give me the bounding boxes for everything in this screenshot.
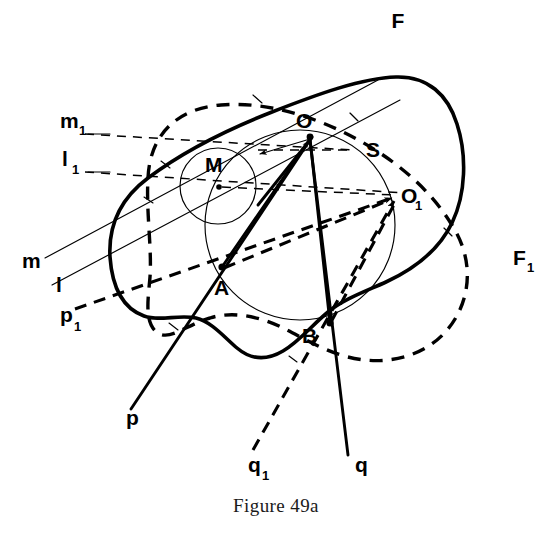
label-m1: m [60, 109, 79, 132]
tick-F-upper [253, 95, 262, 103]
label-B: B [302, 324, 317, 347]
point-M [216, 184, 222, 190]
label-l1-group: l 1 [62, 147, 79, 177]
label-m: m [22, 249, 41, 272]
label-l1-subscript: 1 [72, 162, 79, 177]
tick-F1-upper-right [350, 113, 358, 121]
label-m1-group: m 1 [60, 109, 86, 138]
line-l [52, 100, 400, 285]
point-B [326, 319, 333, 326]
segment-M-to-O1 [222, 187, 394, 195]
point-O [307, 134, 314, 141]
label-O: O [296, 109, 312, 132]
label-p1: p [60, 303, 73, 326]
label-q1: q [248, 453, 261, 476]
label-S: S [366, 138, 380, 161]
label-l1: l [62, 147, 68, 170]
point-A [218, 263, 225, 270]
label-F: F [392, 9, 405, 32]
label-p1-subscript: 1 [74, 319, 81, 334]
label-q: q [355, 453, 368, 476]
tick-F-bottom [289, 356, 297, 362]
label-p: p [126, 406, 139, 429]
label-q1-subscript: 1 [262, 468, 269, 483]
figure-caption: Figure 49a [0, 495, 552, 517]
label-q1-group: q 1 [248, 453, 269, 483]
segment-O-to-B [310, 139, 330, 323]
label-O1-subscript: 1 [415, 198, 422, 213]
figure-container: F F 1 S M O O 1 A B m m 1 l l 1 p p 1 q [0, 0, 552, 533]
label-A: A [214, 276, 229, 299]
label-M: M [205, 153, 223, 176]
label-O1-group: O 1 [401, 184, 422, 213]
label-m1-subscript: 1 [79, 123, 86, 138]
label-F1: F [513, 246, 526, 269]
geometry-diagram: F F 1 S M O O 1 A B m m 1 l l 1 p p 1 q [0, 0, 552, 533]
boundary-curve-F [110, 77, 464, 358]
label-F1-subscript: 1 [527, 260, 534, 275]
label-l: l [56, 273, 62, 296]
label-F1-group: F 1 [513, 246, 534, 275]
tick-F-bottom-left [169, 323, 178, 330]
